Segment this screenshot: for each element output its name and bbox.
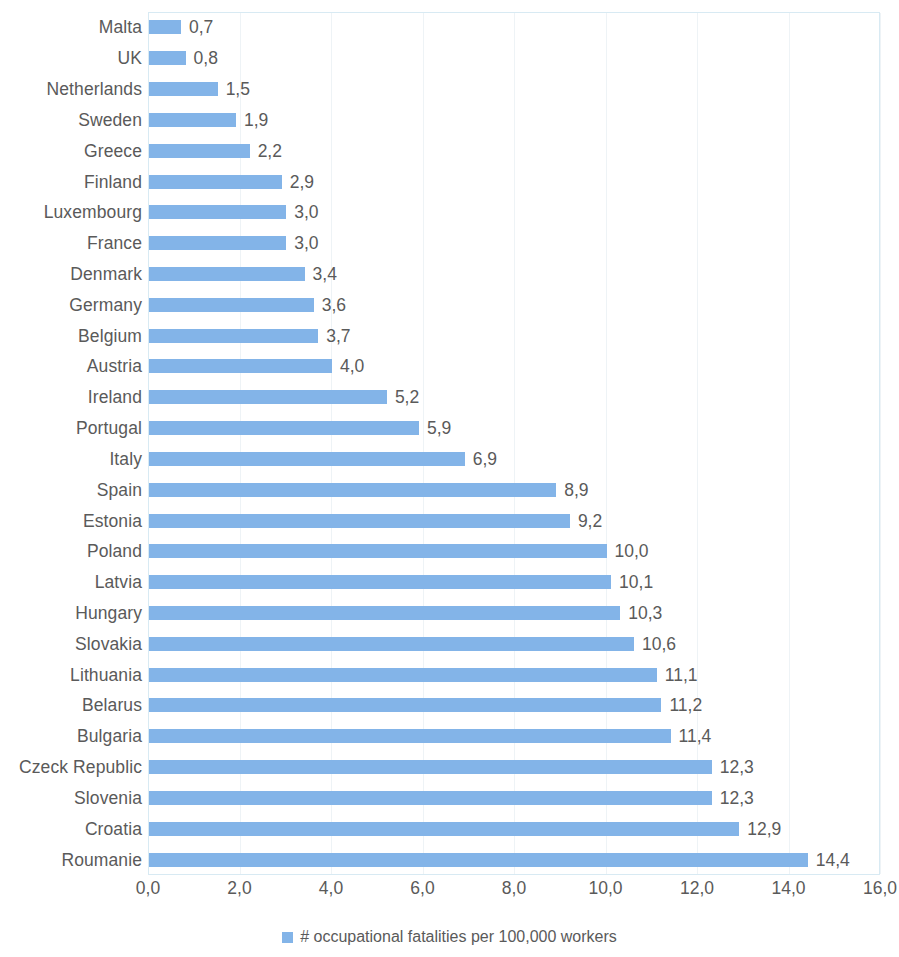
bar (149, 853, 808, 867)
bar-row: Hungary10,3 (0, 598, 899, 629)
bar-row: UK0,8 (0, 43, 899, 74)
legend-swatch-icon (282, 932, 293, 943)
category-label: Poland (87, 541, 142, 562)
bar-value-label: 10,1 (619, 572, 653, 593)
x-axis-tick-label: 12,0 (680, 878, 714, 899)
category-label: Austria (87, 356, 142, 377)
bar-row: Austria4,0 (0, 351, 899, 382)
bar-value-label: 0,7 (189, 17, 213, 38)
bar (149, 606, 620, 620)
bar-value-label: 5,9 (427, 418, 451, 439)
bar (149, 329, 318, 343)
bar-value-label: 11,4 (679, 726, 712, 747)
bar-value-label: 3,4 (313, 263, 337, 284)
x-axis-tick-label: 10,0 (588, 878, 622, 899)
bar (149, 175, 282, 189)
category-label: Hungary (75, 603, 142, 624)
category-label: Estonia (83, 510, 142, 531)
bar-chart: Malta0,7UK0,8Netherlands1,5Sweden1,9Gree… (0, 0, 899, 957)
bar (149, 637, 634, 651)
category-label: Slovenia (74, 787, 142, 808)
bar (149, 668, 657, 682)
bar-value-label: 5,2 (395, 387, 419, 408)
bar (149, 359, 332, 373)
bar-value-label: 8,9 (564, 479, 588, 500)
category-label: Denmark (70, 263, 142, 284)
bar (149, 822, 739, 836)
bar-value-label: 11,2 (669, 695, 702, 716)
category-label: Luxembourg (44, 202, 142, 223)
bar-value-label: 10,6 (642, 633, 676, 654)
bar-row: Denmark3,4 (0, 259, 899, 290)
bar (149, 267, 305, 281)
category-label: Latvia (95, 572, 142, 593)
bar-row: Belarus11,2 (0, 690, 899, 721)
x-axis-tick-label: 16,0 (863, 878, 897, 899)
bar-row: France3,0 (0, 228, 899, 259)
bar-value-label: 1,5 (226, 79, 250, 100)
category-label: Czeck Republic (19, 757, 142, 778)
category-label: Belgium (78, 325, 142, 346)
category-label: Lithuania (70, 664, 142, 685)
bar-row: Italy6,9 (0, 444, 899, 475)
bar-value-label: 12,3 (720, 787, 754, 808)
bar-value-label: 6,9 (473, 448, 497, 469)
bar-value-label: 14,4 (816, 849, 850, 870)
bar-value-label: 10,3 (628, 603, 662, 624)
category-label: Netherlands (47, 79, 142, 100)
bar (149, 113, 236, 127)
bar (149, 51, 186, 65)
category-label: France (87, 233, 142, 254)
category-label: UK (117, 48, 142, 69)
bar-row: Slovenia12,3 (0, 783, 899, 814)
bar-row: Latvia10,1 (0, 567, 899, 598)
bar-value-label: 10,0 (615, 541, 649, 562)
x-axis-tick-label: 8,0 (502, 878, 526, 899)
bar (149, 390, 387, 404)
bar-value-label: 3,7 (326, 325, 350, 346)
category-label: Finland (84, 171, 142, 192)
bar (149, 421, 419, 435)
category-label: Ireland (88, 387, 142, 408)
bar (149, 20, 181, 34)
x-axis-tick-label: 14,0 (771, 878, 805, 899)
bar (149, 729, 671, 743)
bar (149, 144, 250, 158)
bar-rows: Malta0,7UK0,8Netherlands1,5Sweden1,9Gree… (0, 12, 899, 875)
bar-row: Greece2,2 (0, 135, 899, 166)
x-axis-tick-label: 6,0 (410, 878, 434, 899)
x-axis-tick-label: 4,0 (319, 878, 343, 899)
bar-value-label: 9,2 (578, 510, 602, 531)
bar (149, 544, 607, 558)
bar-row: Croatia12,9 (0, 813, 899, 844)
bar-row: Netherlands1,5 (0, 74, 899, 105)
category-label: Belarus (82, 695, 142, 716)
bar-value-label: 3,0 (294, 233, 318, 254)
category-label: Spain (97, 479, 142, 500)
bar (149, 298, 314, 312)
bar-value-label: 3,0 (294, 202, 318, 223)
bar-row: Poland10,0 (0, 536, 899, 567)
category-label: Portugal (76, 418, 142, 439)
bar-value-label: 1,9 (244, 109, 268, 130)
x-axis-tick-label: 0,0 (136, 878, 160, 899)
bar-row: Germany3,6 (0, 289, 899, 320)
bar-value-label: 12,9 (747, 818, 781, 839)
category-label: Croatia (85, 818, 142, 839)
bar-row: Finland2,9 (0, 166, 899, 197)
bar-row: Malta0,7 (0, 12, 899, 43)
bar-value-label: 11,1 (665, 664, 698, 685)
category-label: Malta (99, 17, 142, 38)
bar (149, 698, 661, 712)
category-label: Italy (109, 448, 142, 469)
bar-value-label: 2,9 (290, 171, 314, 192)
bar-value-label: 3,6 (322, 294, 346, 315)
bar (149, 760, 712, 774)
legend-label: # occupational fatalities per 100,000 wo… (300, 928, 617, 946)
category-label: Greece (84, 140, 142, 161)
x-axis-tick-labels: 0,02,04,06,08,010,012,014,016,0 (0, 878, 899, 908)
bar-row: Luxembourg3,0 (0, 197, 899, 228)
bar (149, 205, 286, 219)
bar-row: Portugal5,9 (0, 413, 899, 444)
bar-row: Spain8,9 (0, 474, 899, 505)
